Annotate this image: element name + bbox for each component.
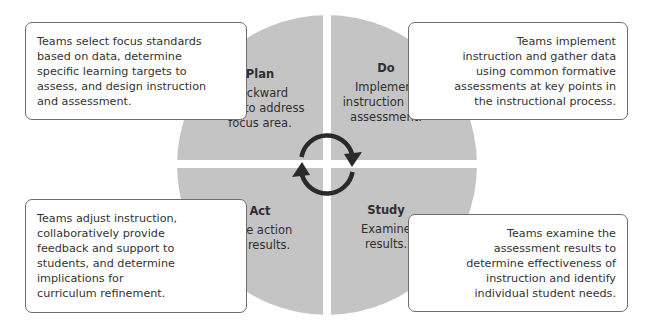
act-description-box: Teams adjust instruction, collaborativel… <box>25 199 247 313</box>
act-description-line: Teams adjust instruction, <box>37 211 237 226</box>
act-description-line: collaboratively provide <box>37 226 237 241</box>
act-description-line: students, and determine <box>37 256 237 271</box>
act-description-line: implications for <box>37 271 237 286</box>
act-description-line: curriculum refinement. <box>37 286 237 301</box>
study-description-box: Teams examine the assessment results to … <box>408 214 628 312</box>
act-description-line: feedback and support to <box>37 241 237 256</box>
plan-description-line: assess, and design instruction <box>37 79 237 94</box>
do-description-line: the instructional process. <box>416 94 616 109</box>
do-description-line: using common formative <box>416 64 616 79</box>
plan-description-box: Teams select focus standards based on da… <box>25 22 247 120</box>
study-description-line: instruction and identify <box>411 271 616 286</box>
study-description-line: individual student needs. <box>411 286 616 301</box>
plan-description-line: Teams select focus standards <box>37 34 237 49</box>
study-description-line: assessment results to <box>411 241 616 256</box>
do-description-line: assessments at key points in <box>416 79 616 94</box>
cycle-arrows-icon <box>302 136 353 194</box>
plan-description-line: based on data, determine <box>37 49 237 64</box>
do-description-line: Teams implement <box>416 34 616 49</box>
do-description-line: instruction and gather data <box>416 49 616 64</box>
study-description-line: Teams examine the <box>411 226 616 241</box>
plan-description-line: specific learning targets to <box>37 64 237 79</box>
study-description-line: determine effectiveness of <box>411 256 616 271</box>
plan-description-line: and assessment. <box>37 94 237 109</box>
pdsa-cycle-diagram: Plan Backward plan to address focus area… <box>0 0 651 333</box>
do-description-box: Teams implement instruction and gather d… <box>408 22 628 120</box>
